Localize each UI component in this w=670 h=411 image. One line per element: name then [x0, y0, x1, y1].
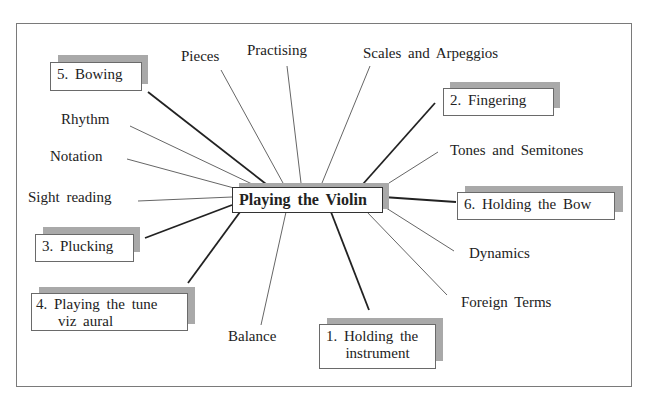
line-rhythm [130, 126, 252, 184]
line-holding-bow [383, 197, 456, 202]
topic-box-bowing: 5. Bowing [50, 62, 142, 91]
line-sight-reading [138, 197, 232, 201]
line-plucking [145, 205, 232, 238]
topic-box-fingering: 2. Fingering [443, 88, 554, 116]
line-playing-tune [188, 212, 240, 283]
line-bowing [148, 92, 266, 184]
topic-balance: Balance [228, 329, 276, 344]
line-pieces [221, 70, 283, 183]
topic-notation: Notation [50, 149, 103, 164]
topic-pieces: Pieces [181, 49, 219, 64]
line-practising [287, 66, 301, 183]
topic-scales-arpeggios: Scales and Arpeggios [363, 46, 498, 61]
line-tones [389, 152, 438, 183]
playing-tune-line2: viz aural [36, 313, 183, 330]
topic-box-holding-bow: 6. Holding the Bow [457, 192, 615, 220]
topic-box-plucking: 3. Plucking [35, 234, 134, 262]
line-notation [127, 159, 234, 188]
topic-foreign-terms: Foreign Terms [461, 295, 551, 310]
topic-box-holding-instrument: 1. Holding the instrument [319, 324, 436, 369]
line-dynamics [383, 206, 454, 251]
center-node: Playing the Violin [232, 187, 383, 213]
line-scales [322, 66, 370, 183]
playing-tune-line1: 4. Playing the tune [36, 296, 158, 312]
topic-rhythm: Rhythm [61, 112, 109, 127]
topic-practising: Practising [247, 43, 307, 58]
topic-box-playing-tune: 4. Playing the tune viz aural [31, 293, 188, 331]
topic-dynamics: Dynamics [469, 246, 530, 261]
line-fingering [363, 103, 435, 184]
holding-instrument-line1: 1. Holding the [326, 328, 418, 344]
line-holding-instrument [331, 212, 369, 310]
line-balance [261, 212, 286, 325]
topic-tones-semitones: Tones and Semitones [450, 143, 583, 158]
line-foreign-terms [367, 212, 447, 295]
holding-instrument-line2: instrument [326, 345, 429, 362]
topic-sight-reading: Sight reading [28, 190, 111, 205]
